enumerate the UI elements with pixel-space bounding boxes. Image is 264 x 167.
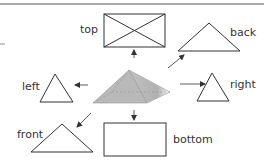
arrow-front [77,113,91,127]
orthographic-views-diagram: top back left right front bottom [0,0,264,167]
label-back: back [230,26,257,39]
label-front: front [17,128,44,141]
top-view [104,14,165,47]
label-left: left [22,80,41,93]
label-right: right [230,78,257,91]
right-view [197,73,229,101]
bottom-view [104,123,166,156]
label-bottom: bottom [173,133,213,146]
label-top: top [80,23,98,36]
arrow-back [168,55,184,68]
left-view [40,74,73,102]
square-pyramid [93,70,170,103]
